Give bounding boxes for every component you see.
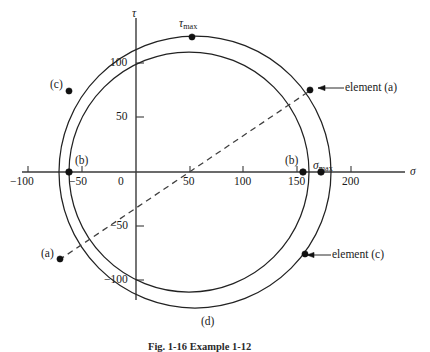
marker-point-c (66, 88, 72, 94)
tau-tick-label-50: 50 (116, 111, 128, 123)
sigma-tick-label-50: 50 (183, 176, 195, 188)
tau-max-subscript: max (183, 22, 197, 31)
sigma-tick-label-150: 150 (288, 176, 305, 188)
tau-max-label: τmax (179, 14, 197, 31)
tau-axis-title: τ (132, 8, 136, 20)
callout-element-c: element (c) (332, 249, 384, 261)
data-point-markers (57, 34, 324, 262)
callout-element-a: element (a) (345, 82, 397, 94)
element-a-leader (318, 85, 344, 90)
sigma-tick-label-200: 200 (342, 176, 359, 188)
sigma-axis-title: σ (410, 166, 416, 178)
point-label-a: (a) (41, 248, 54, 260)
marker-element-a (307, 87, 313, 93)
point-label-b-right: (b) (285, 155, 298, 167)
element-c-leader (307, 252, 331, 257)
tau-tick-label-neg50: −50 (110, 220, 128, 232)
figure-caption: Fig. 1-16 Example 1-12 (148, 341, 251, 352)
marker-point-a (57, 256, 63, 262)
sigma-tick-label-neg50: −50 (69, 176, 87, 188)
sigma-max-label: σmax (313, 156, 333, 173)
marker-element-c (302, 251, 308, 257)
point-label-b-left: (b) (75, 155, 88, 167)
panel-label: (d) (201, 316, 214, 328)
sigma-tick-label-neg100: −100 (10, 176, 34, 188)
tau-tick-label-neg100: −100 (104, 274, 128, 286)
tau-tick-label-100: 100 (110, 57, 127, 69)
sigma-max-subscript: max (319, 164, 333, 173)
marker-tau-max (189, 34, 195, 40)
sigma-tick-label-100: 100 (234, 176, 251, 188)
sigma-tick-label-0: 0 (118, 176, 124, 188)
point-label-c: (c) (50, 79, 63, 91)
